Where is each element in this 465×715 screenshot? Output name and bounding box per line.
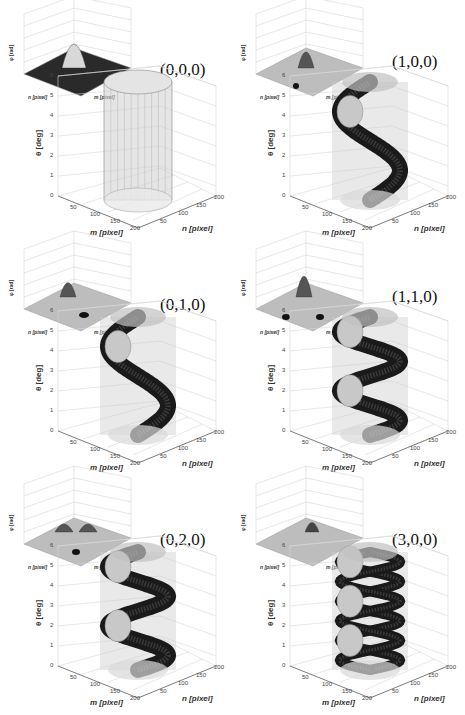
m-tick: 150 [110,453,120,459]
theta-axis-label: θ [deg] [266,130,275,156]
n-tick: 200 [214,664,224,670]
m-tick: 100 [322,211,332,217]
n-tick: 200 [446,664,456,670]
theta-tick: 1 [50,642,53,648]
isosurface-plot: 01234565010015020050100150200θ [deg]m [p… [272,68,462,233]
theta-tick: 5 [50,562,53,568]
figure-panel-p110: φ [rad]n [pixel]m [pixel] (1,1,0) 012345… [232,235,464,470]
theta-tick: 2 [50,152,53,158]
figure-panel-p020: φ [rad]n [pixel]m [pixel] (0,2,0) 012345… [0,470,232,705]
n-tick: 100 [178,445,188,451]
n-axis-label: n [pixel] [182,694,213,703]
theta-tick: 6 [282,72,285,78]
n-tick: 50 [392,688,399,694]
m-tick: 100 [90,446,100,452]
theta-tick: 1 [50,172,53,178]
theta-tick: 3 [282,367,285,373]
theta-tick: 0 [282,427,285,433]
n-axis-label: n [pixel] [182,224,213,233]
n-axis-label: n [pixel] [414,694,445,703]
isosurface-plot: 01234565010015020050100150200θ [deg]m [p… [40,303,230,468]
theta-tick: 3 [282,132,285,138]
theta-axis-label: θ [deg] [266,365,275,391]
figure-panel-p010: φ [rad]n [pixel]m [pixel] (0,1,0) 012345… [0,235,232,470]
inset-z-axis-label: φ [rad] [240,45,246,61]
inset-z-axis-label: φ [rad] [240,280,246,296]
n-tick: 50 [160,453,167,459]
theta-tick: 2 [50,387,53,393]
inset-z-axis-label: φ [rad] [8,45,14,61]
theta-tick: 3 [282,602,285,608]
n-tick: 150 [428,437,438,443]
theta-tick: 2 [50,622,53,628]
n-tick: 100 [178,680,188,686]
theta-tick: 2 [282,387,285,393]
theta-tick: 0 [50,662,53,668]
n-tick: 100 [410,210,420,216]
theta-tick: 0 [50,427,53,433]
inset-z-axis-label: φ [rad] [240,515,246,531]
theta-tick: 3 [50,367,53,373]
m-tick: 100 [90,681,100,687]
m-tick: 50 [302,204,309,210]
m-axis-label: m [pixel] [322,698,355,707]
m-tick: 100 [90,211,100,217]
m-tick: 200 [130,460,140,466]
theta-axis-label: θ [deg] [266,600,275,626]
m-tick: 50 [70,439,77,445]
m-tick: 200 [130,225,140,231]
theta-tick: 6 [282,542,285,548]
theta-tick: 5 [50,92,53,98]
n-tick: 100 [410,445,420,451]
theta-tick: 0 [282,662,285,668]
theta-tick: 6 [282,307,285,313]
theta-tick: 4 [282,112,285,118]
figure-panel-p100: φ [rad]n [pixel]m [pixel] (1,0,0) 012345… [232,0,464,235]
m-tick: 200 [362,695,372,701]
theta-tick: 5 [282,562,285,568]
theta-tick: 1 [50,407,53,413]
m-tick: 150 [342,218,352,224]
theta-tick: 4 [50,582,53,588]
theta-tick: 4 [50,112,53,118]
n-tick: 150 [196,202,206,208]
m-tick: 150 [110,218,120,224]
m-tick: 50 [302,674,309,680]
m-tick: 50 [70,674,77,680]
m-tick: 100 [322,446,332,452]
isosurface-plot: 01234565010015020050100150200θ [deg]m [p… [40,68,230,233]
theta-tick: 3 [50,132,53,138]
n-tick: 200 [214,194,224,200]
m-tick: 50 [302,439,309,445]
theta-tick: 2 [282,152,285,158]
theta-tick: 3 [50,602,53,608]
theta-tick: 4 [282,347,285,353]
n-axis-label: n [pixel] [414,459,445,468]
n-tick: 50 [392,218,399,224]
m-axis-label: m [pixel] [90,698,123,707]
m-tick: 200 [362,460,372,466]
n-tick: 150 [196,672,206,678]
theta-tick: 1 [282,172,285,178]
theta-tick: 1 [282,407,285,413]
m-tick: 150 [342,688,352,694]
m-tick: 150 [110,688,120,694]
theta-tick: 2 [282,622,285,628]
theta-tick: 5 [282,92,285,98]
theta-tick: 6 [50,542,53,548]
n-tick: 100 [410,680,420,686]
isosurface-plot: 01234565010015020050100150200θ [deg]m [p… [272,538,462,703]
inset-z-axis-label: φ [rad] [8,280,14,296]
figure-panel-p300: φ [rad]n [pixel]m [pixel] (3,0,0) 012345… [232,470,464,705]
theta-axis-label: θ [deg] [34,130,43,156]
m-tick: 200 [130,695,140,701]
n-tick: 200 [446,194,456,200]
theta-tick: 4 [282,582,285,588]
n-axis-label: n [pixel] [182,459,213,468]
n-axis-label: n [pixel] [414,224,445,233]
n-tick: 50 [160,218,167,224]
theta-tick: 6 [50,72,53,78]
n-tick: 100 [178,210,188,216]
m-tick: 50 [70,204,77,210]
n-tick: 50 [160,688,167,694]
